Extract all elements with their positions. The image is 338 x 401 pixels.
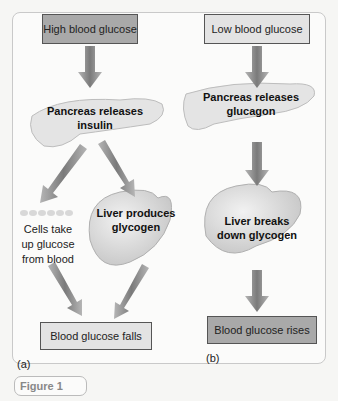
pancreas-b-label: Pancreas releasesglucagon [196,90,306,118]
cells-label: Cells takeup glucosefrom blood [20,222,76,267]
panel-a-label: (a) [17,358,30,370]
glucose-falls-box: Blood glucose falls [40,322,152,350]
pancreas-a-label: Pancreas releasesinsulin [40,104,150,132]
high-glucose-box: High blood glucose [42,14,138,44]
figure-caption: Figure 1 [14,376,87,396]
low-glucose-box: Low blood glucose [204,14,310,44]
liver-a-label: Liver producesglycogen [96,206,176,234]
glucose-rises-box: Blood glucose rises [207,316,317,344]
cells-icon [20,210,73,216]
liver-b-label: Liver breaksdown glycogen [214,214,300,242]
panel-b-label: (b) [206,352,219,364]
